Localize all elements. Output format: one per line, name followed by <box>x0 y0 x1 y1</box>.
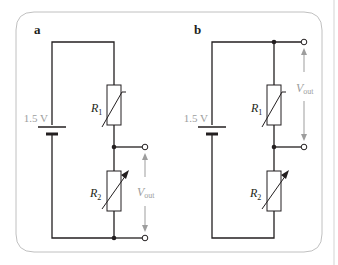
battery-icon-a <box>38 127 66 134</box>
wire-bottom-a <box>52 135 114 238</box>
battery-icon-b <box>198 127 226 134</box>
figure-border <box>16 12 322 252</box>
panel-a: a 1.5 V R1 R2 <box>24 22 156 241</box>
vout-label-a: Vout <box>137 185 155 200</box>
r2-label-b: R2 <box>249 186 261 202</box>
terminal-icon <box>142 144 148 150</box>
terminal-icon <box>301 144 307 150</box>
vout-label-b: Vout <box>296 81 314 96</box>
r2-label-a: R2 <box>89 186 101 202</box>
wire-top-a <box>52 42 114 125</box>
panel-label-a: a <box>34 22 41 37</box>
r1-label-b: R1 <box>250 101 262 117</box>
panel-b: b 1.5 V R1 R2 <box>184 22 315 238</box>
variable-resistor-icon-b <box>262 170 289 211</box>
wire-bottom-b <box>212 135 274 238</box>
thermistor-icon-b <box>262 85 286 127</box>
variable-resistor-icon-a <box>102 170 129 211</box>
thermistor-icon-a <box>102 85 126 127</box>
circuit-figure: a 1.5 V R1 R2 <box>0 0 338 265</box>
junction-node <box>272 145 277 150</box>
junction-node <box>112 145 117 150</box>
junction-node <box>272 40 277 45</box>
r1-label-a: R1 <box>90 101 102 117</box>
battery-label-b: 1.5 V <box>184 112 208 124</box>
terminal-icon <box>142 235 148 241</box>
panel-label-b: b <box>194 22 201 37</box>
junction-node <box>112 236 117 241</box>
battery-label-a: 1.5 V <box>24 112 48 124</box>
terminal-icon <box>301 39 307 45</box>
